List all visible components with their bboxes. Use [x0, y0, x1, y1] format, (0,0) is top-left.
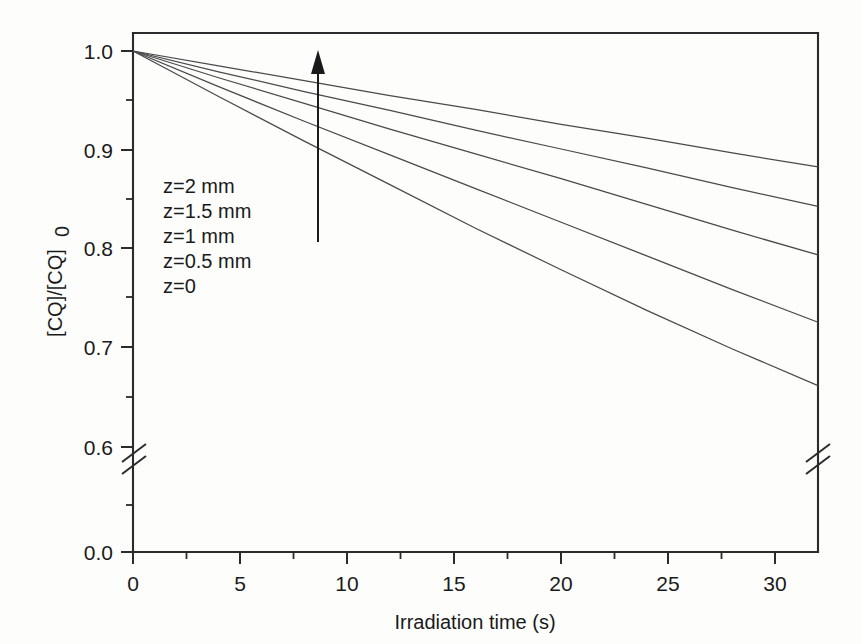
legend-item-1: z=1.5 mm: [163, 200, 251, 222]
legend-item-4: z=0: [163, 275, 196, 297]
legend-item-3: z=0.5 mm: [163, 250, 251, 272]
y-tick-label-6: 0.0: [84, 541, 113, 564]
y-axis-title-subscript: 0: [51, 226, 73, 237]
legend-block: z=2 mmz=1.5 mmz=1 mmz=0.5 mmz=0: [163, 175, 251, 297]
x-tick-label-4: 15: [442, 572, 465, 595]
data-curve-z-0-5-mm: [133, 51, 818, 322]
y-tick-label-2: 0.9: [84, 139, 113, 162]
x-axis-title: Irradiation time (s): [394, 611, 555, 633]
x-tick-label-6: 25: [656, 572, 679, 595]
y-axis-title: [CQ]/[CQ] 0: [44, 226, 73, 337]
y-tick-label-4: 0.7: [84, 336, 113, 359]
x-tick-label-5: 20: [549, 572, 572, 595]
axis-frame: [133, 33, 818, 552]
data-curve-z-1-mm: [133, 51, 818, 255]
legend-item-0: z=2 mm: [163, 175, 235, 197]
y-tick-label-3: 0.8: [84, 237, 113, 260]
y-tick-label-1: 1.0: [84, 40, 113, 63]
y-axis-major-ticks: [121, 51, 133, 552]
legend-item-2: z=1 mm: [163, 225, 235, 247]
x-tick-label-7: 30: [763, 572, 786, 595]
chart-figure: 1.0 0.9 0.8 0.7 0.6 0.0 0 5 10 15 20 25 …: [0, 0, 862, 644]
chart-svg: 1.0 0.9 0.8 0.7 0.6 0.0 0 5 10 15 20 25 …: [0, 0, 862, 644]
data-curve-z-2-mm: [133, 51, 818, 167]
y-tick-label-5: 0.6: [84, 436, 113, 459]
x-tick-labels: 0 5 10 15 20 25 30: [127, 572, 787, 595]
data-curve-z-1-5-mm: [133, 51, 818, 206]
x-axis-major-ticks: [133, 552, 775, 564]
x-tick-label-1: 0: [127, 572, 139, 595]
x-tick-label-3: 10: [335, 572, 358, 595]
y-axis-title-main: [CQ]/[CQ]: [44, 249, 66, 337]
y-tick-labels: 1.0 0.9 0.8 0.7 0.6 0.0: [84, 40, 113, 564]
x-tick-label-2: 5: [234, 572, 246, 595]
